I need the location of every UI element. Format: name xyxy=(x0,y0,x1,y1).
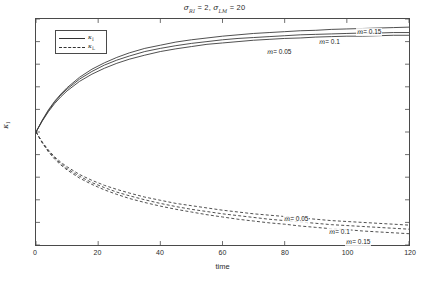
figure-canvas: σRI = 2, σLM = 20 κI 0.250.30.350.40.450… xyxy=(0,0,429,283)
x-axis-label: time xyxy=(35,262,410,271)
legend-label-kappa-i: κI xyxy=(88,33,94,42)
chart-title: σRI = 2, σLM = 20 xyxy=(0,3,429,14)
curve-annotation: m= 0.15 xyxy=(345,238,371,246)
curve-annotation: m= 0.1 xyxy=(318,38,341,46)
y-axis-label: κI xyxy=(1,105,12,145)
title-sigma-ri: σRI xyxy=(184,3,195,12)
x-tick-label: 20 xyxy=(78,249,118,256)
x-tick-label: 120 xyxy=(390,249,429,256)
legend: κI κL xyxy=(55,30,107,54)
curve-annotation: m= 0.05 xyxy=(283,215,309,223)
legend-item-kappa-i: κI xyxy=(59,33,103,42)
legend-label-kappa-l: κL xyxy=(88,42,95,51)
curve-annotation: m= 0.15 xyxy=(356,28,382,36)
x-tick-label: 60 xyxy=(203,249,243,256)
x-tick-label: 40 xyxy=(140,249,180,256)
title-value-lm: = 20 xyxy=(230,3,246,12)
y-axis-label-wrap: κI xyxy=(0,0,34,283)
title-sigma-lm: σLM xyxy=(213,3,227,12)
x-tick-label: 100 xyxy=(328,249,368,256)
curve-annotation: m= 0.05 xyxy=(266,48,292,56)
legend-item-kappa-l: κL xyxy=(59,42,103,51)
x-tick-label: 80 xyxy=(265,249,305,256)
x-tick-label: 0 xyxy=(15,249,55,256)
curve-annotation: m= 0.1 xyxy=(328,228,351,236)
title-value-ri: = 2, xyxy=(197,3,211,12)
